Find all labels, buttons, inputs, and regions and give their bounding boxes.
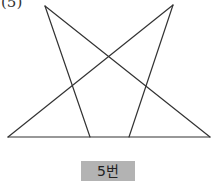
edge-apex-left-to-base-right xyxy=(45,6,210,137)
answer-label: 5번 xyxy=(81,161,135,181)
edge-apex-right-to-base-left xyxy=(8,5,173,137)
edge-apex-left-to-inner-left xyxy=(45,6,90,137)
edge-apex-right-to-inner-right xyxy=(129,5,173,137)
star-figure xyxy=(0,0,212,181)
